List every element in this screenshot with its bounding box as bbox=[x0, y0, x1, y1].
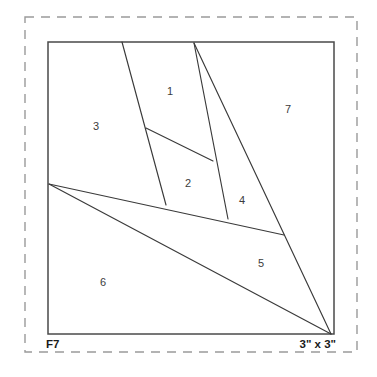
section-number-3: 3 bbox=[93, 120, 99, 132]
section-number-6: 6 bbox=[100, 276, 106, 288]
block-size-label: 3" x 3" bbox=[300, 338, 336, 350]
pattern-diagram: 1 2 3 4 5 6 7 F7 3" x 3" bbox=[0, 0, 377, 377]
section-number-4: 4 bbox=[239, 194, 245, 206]
section-number-1: 1 bbox=[167, 85, 173, 97]
pattern-id-label: F7 bbox=[46, 338, 59, 350]
section-number-7: 7 bbox=[285, 103, 291, 115]
section-number-2: 2 bbox=[185, 177, 191, 189]
section-number-5: 5 bbox=[258, 257, 264, 269]
pattern-sheet: 1 2 3 4 5 6 7 F7 3" x 3" bbox=[0, 0, 377, 377]
